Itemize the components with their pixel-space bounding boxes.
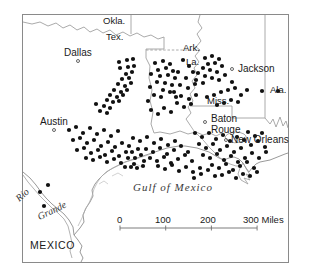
occurrence-dot: [155, 159, 159, 163]
occurrence-dot: [210, 76, 214, 80]
occurrence-dot: [222, 158, 226, 162]
occurrence-dot: [162, 106, 166, 110]
city-label-dallas: Dallas: [64, 48, 92, 58]
occurrence-dot: [146, 99, 150, 103]
scale-number-1: 100: [155, 215, 171, 225]
water-label-gulf-of-mexico: Gulf of Mexico: [133, 182, 213, 193]
occurrence-dot: [199, 172, 203, 176]
occurrence-dot: [227, 170, 231, 174]
occurrence-dot: [239, 146, 243, 150]
occurrence-dot: [166, 73, 170, 77]
occurrence-dot: [117, 154, 121, 158]
occurrence-dot: [201, 66, 205, 70]
occurrence-dot: [94, 102, 98, 106]
occurrence-dot: [218, 148, 222, 152]
occurrence-dot: [125, 88, 129, 92]
occurrence-dot: [236, 100, 240, 104]
occurrence-dot: [153, 61, 157, 65]
occurrence-dot: [248, 174, 252, 178]
occurrence-dot: [116, 82, 120, 86]
occurrence-dot: [168, 90, 172, 94]
occurrence-dot: [220, 173, 224, 177]
occurrence-dot: [110, 149, 114, 153]
occurrence-dot: [159, 137, 163, 141]
occurrence-dot: [182, 105, 186, 109]
occurrence-dot: [217, 166, 221, 170]
scale-number-0: 0: [117, 215, 122, 225]
occurrence-dot: [220, 64, 224, 68]
occurrence-dot: [210, 54, 214, 58]
occurrence-dot: [130, 70, 134, 74]
occurrence-dot: [82, 146, 86, 150]
occurrence-dot: [131, 57, 135, 61]
city-label-baton-rouge: Baton: [211, 114, 237, 124]
occurrence-dot: [123, 165, 127, 169]
occurrence-dot: [124, 72, 128, 76]
occurrence-dot: [75, 148, 79, 152]
occurrence-dot: [149, 72, 153, 76]
occurrence-dot: [159, 95, 163, 99]
occurrence-dot: [132, 64, 136, 68]
occurrence-dot: [151, 150, 155, 154]
occurrence-dot: [194, 93, 198, 97]
occurrence-dot: [183, 153, 187, 157]
occurrence-dot: [155, 80, 159, 84]
occurrence-dot: [125, 58, 129, 62]
occurrence-dot: [106, 140, 110, 144]
occurrence-dot: [98, 109, 102, 113]
occurrence-dot: [176, 70, 180, 74]
occurrence-dot: [179, 94, 183, 98]
occurrence-dot: [102, 104, 106, 108]
occurrence-dot: [163, 81, 167, 85]
country-label-mexico: MEXICO: [30, 240, 75, 251]
occurrence-dot: [211, 142, 215, 146]
occurrence-dot: [98, 155, 102, 159]
occurrence-dot: [161, 59, 165, 63]
occurrence-dot: [245, 160, 249, 164]
occurrence-dot: [103, 153, 107, 157]
occurrence-dot: [174, 95, 178, 99]
occurrence-dot: [89, 151, 93, 155]
occurrence-dot: [213, 174, 217, 178]
occurrence-dot: [127, 144, 131, 148]
occurrence-dot: [252, 166, 256, 170]
occurrence-dot: [257, 156, 261, 160]
city-label-austin: Austin: [40, 117, 68, 127]
occurrence-dot: [136, 147, 140, 151]
occurrence-dot: [177, 169, 181, 173]
occurrence-dot: [113, 145, 117, 149]
occurrence-dot: [156, 112, 160, 116]
occurrence-dot: [149, 108, 153, 112]
occurrence-dot: [152, 141, 156, 145]
occurrence-dot: [156, 164, 160, 168]
occurrence-dot: [123, 84, 127, 88]
occurrence-dot: [203, 74, 207, 78]
occurrence-dot: [105, 160, 109, 164]
city-label-jackson: Jackson: [238, 64, 275, 74]
occurrence-dot: [102, 128, 106, 132]
occurrence-dot: [139, 153, 143, 157]
occurrence-dot: [217, 78, 221, 82]
occurrence-dot: [112, 157, 116, 161]
occurrence-dot: [74, 125, 78, 129]
occurrence-dot: [142, 159, 146, 163]
occurrence-dot: [78, 136, 82, 140]
occurrence-dot: [71, 138, 75, 142]
occurrence-dot: [214, 137, 218, 141]
occurrence-dot: [166, 143, 170, 147]
occurrence-dot: [223, 73, 227, 77]
occurrence-dot: [238, 164, 242, 168]
occurrence-dot: [67, 128, 71, 132]
occurrence-dot: [152, 93, 156, 97]
occurrence-dot: [232, 150, 236, 154]
state-label-la: La.: [186, 57, 199, 67]
occurrence-dot: [120, 141, 124, 145]
occurrence-dot: [88, 126, 92, 130]
city-label-new-orleans: New Orleans: [231, 135, 289, 145]
occurrence-dot: [172, 148, 176, 152]
occurrence-dot: [120, 77, 124, 81]
occurrence-dot: [126, 156, 130, 160]
occurrence-dot: [230, 80, 234, 84]
occurrence-dot: [184, 165, 188, 169]
occurrence-dot: [111, 100, 115, 104]
